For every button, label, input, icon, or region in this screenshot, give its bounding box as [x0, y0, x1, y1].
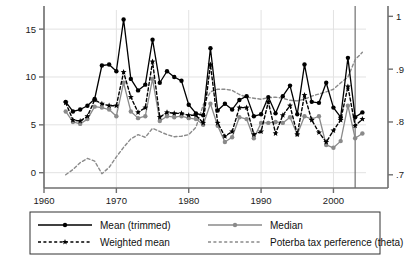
data-point-marker	[266, 121, 270, 125]
data-point-marker	[273, 111, 277, 115]
data-point-marker	[143, 114, 147, 118]
data-point-marker	[346, 56, 350, 60]
data-point-marker	[331, 146, 335, 150]
data-point-marker	[208, 102, 212, 106]
y-tick-label-left: 5	[31, 119, 36, 130]
data-point-marker	[64, 109, 68, 113]
data-point-marker	[273, 120, 277, 124]
data-point-marker	[92, 97, 96, 101]
chart-canvas: 051015.7.8.9119601970198019902000Poterba…	[0, 0, 406, 257]
y-tick-label-right: 1	[396, 11, 401, 22]
y-tick-label-right: .7	[396, 169, 404, 180]
data-point-marker	[208, 46, 212, 50]
x-tick-label: 2000	[323, 195, 344, 206]
chart-figure: 051015.7.8.9119601970198019902000Poterba…	[0, 0, 406, 257]
data-point-marker	[316, 129, 322, 135]
legend-box	[30, 212, 380, 254]
data-point-marker	[360, 110, 364, 114]
y-tick-label-right: .9	[396, 64, 404, 75]
data-point-marker	[230, 107, 234, 111]
data-point-marker	[107, 62, 111, 66]
data-point-marker	[233, 223, 237, 227]
y-tick-label-left: 0	[31, 167, 36, 178]
data-point-marker	[129, 77, 133, 81]
data-point-marker	[237, 98, 241, 102]
y-tick-label-right: .8	[396, 116, 404, 127]
data-point-marker	[244, 94, 248, 98]
data-point-marker	[100, 63, 104, 67]
data-point-marker	[360, 131, 364, 135]
data-point-marker	[317, 101, 321, 105]
data-point-marker	[273, 130, 279, 136]
data-point-marker	[338, 139, 342, 143]
data-point-marker	[223, 140, 227, 144]
data-point-marker	[288, 83, 292, 87]
data-point-marker	[114, 114, 118, 118]
data-point-marker	[266, 95, 270, 99]
data-point-marker	[252, 114, 256, 118]
data-point-marker	[324, 81, 328, 85]
x-tick-label: 1960	[33, 195, 54, 206]
data-point-marker	[114, 69, 118, 73]
data-point-marker	[281, 94, 285, 98]
data-point-marker	[331, 105, 335, 109]
data-point-marker	[172, 75, 176, 79]
data-point-marker	[78, 107, 82, 111]
series-median	[64, 77, 365, 150]
data-point-marker	[187, 103, 191, 107]
data-point-marker	[346, 103, 350, 107]
data-point-marker	[302, 114, 306, 118]
data-point-marker	[302, 62, 306, 66]
data-point-marker	[317, 114, 321, 118]
data-point-marker	[201, 113, 205, 117]
data-point-marker	[230, 135, 234, 139]
legend-label: Weighted mean	[100, 237, 170, 248]
legend-label: Mean (trimmed)	[100, 220, 171, 231]
data-point-marker	[237, 115, 241, 119]
x-tick-label: 1980	[178, 195, 199, 206]
data-point-marker	[165, 69, 169, 73]
data-point-marker	[121, 17, 125, 21]
data-point-marker	[288, 115, 292, 119]
y-tick-label-left: 15	[25, 24, 36, 35]
x-tick-label: 1990	[251, 195, 272, 206]
data-point-marker	[295, 112, 299, 116]
data-point-marker	[143, 82, 147, 86]
data-point-marker	[179, 79, 183, 83]
data-point-marker	[136, 88, 140, 92]
data-point-marker	[92, 104, 96, 108]
data-point-marker	[353, 136, 357, 140]
data-point-marker	[215, 108, 219, 112]
data-point-marker	[158, 81, 162, 85]
data-point-marker	[244, 117, 248, 121]
data-point-marker	[310, 100, 314, 104]
legend-label: Poterba tax perference (theta)	[270, 237, 403, 248]
data-point-marker	[223, 102, 227, 106]
data-point-marker	[63, 223, 67, 227]
data-point-marker	[71, 109, 75, 113]
data-point-marker	[135, 109, 141, 115]
y-tick-label-left: 10	[25, 71, 36, 82]
data-point-marker	[338, 115, 342, 119]
data-point-marker	[129, 109, 133, 113]
data-point-marker	[64, 100, 68, 104]
data-point-marker	[281, 121, 285, 125]
data-point-marker	[136, 116, 140, 120]
data-point-marker	[259, 112, 263, 116]
data-point-marker	[194, 111, 198, 115]
data-point-marker	[150, 37, 154, 41]
x-tick-label: 1970	[106, 195, 127, 206]
data-point-marker	[128, 94, 134, 100]
legend-label: Median	[270, 220, 303, 231]
data-point-marker	[85, 103, 89, 107]
data-point-marker	[353, 115, 357, 119]
